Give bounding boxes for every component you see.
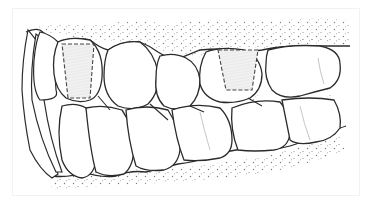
lower-tooth-3 xyxy=(126,107,180,171)
lower-tooth-6 xyxy=(282,98,340,144)
lower-tooth-5 xyxy=(232,101,291,151)
lower-tooth-4 xyxy=(172,105,232,160)
upper-tooth-3 xyxy=(156,54,200,109)
dental-illustration xyxy=(0,0,372,203)
marked-region-tooth-1 xyxy=(62,44,94,98)
teeth-drawing xyxy=(0,0,372,203)
upper-tooth-2 xyxy=(104,42,158,109)
